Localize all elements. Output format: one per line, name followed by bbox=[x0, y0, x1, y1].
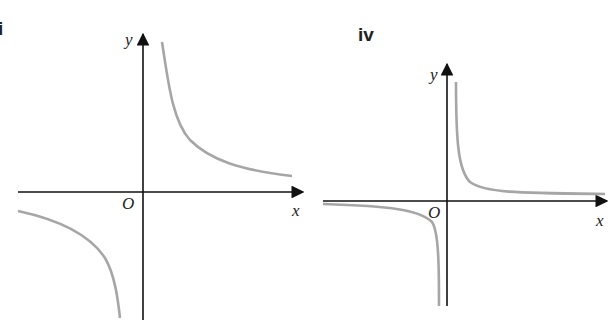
x-axis-label-right: x bbox=[595, 211, 604, 230]
y-axis-label-right: y bbox=[428, 65, 438, 84]
hyperbola-branch-q3-right bbox=[323, 204, 439, 306]
hyperbola-branch-q1-left bbox=[162, 42, 292, 176]
graph-left: y x O bbox=[18, 30, 303, 320]
y-axis-label-left: y bbox=[123, 30, 133, 49]
graph-right: y x O bbox=[323, 64, 607, 306]
x-axis-label-left: x bbox=[291, 201, 300, 220]
origin-label-left: O bbox=[122, 194, 134, 213]
origin-label-right: O bbox=[428, 203, 440, 222]
hyperbola-branch-q1-right bbox=[456, 82, 605, 194]
graphs-canvas: y x O y x O bbox=[0, 0, 613, 335]
hyperbola-branch-q3-left bbox=[18, 211, 120, 318]
